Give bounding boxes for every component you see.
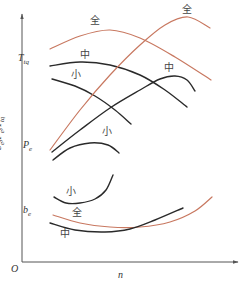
origin-label: O (11, 264, 18, 274)
load-label: 中 (164, 63, 174, 73)
curve-pe-全 (50, 17, 210, 150)
load-label: 中 (60, 229, 70, 239)
load-label: 小 (66, 187, 76, 197)
curve-group (50, 17, 212, 232)
load-label: 全 (90, 16, 100, 26)
load-label: 全 (72, 208, 82, 218)
curve-pe-小 (53, 143, 119, 160)
series-name-label: Pe (23, 140, 32, 153)
curve-pe-中 (52, 76, 195, 152)
load-label: 中 (80, 50, 90, 60)
y-axis-label: be,Pe,Ttq (0, 117, 6, 150)
load-label: 小 (102, 127, 112, 137)
engine-characteristic-chart (0, 0, 243, 287)
load-label: 全 (182, 5, 192, 15)
x-axis-label: n (118, 270, 123, 280)
load-label: 小 (71, 70, 81, 80)
series-name-label: Ttq (18, 53, 29, 66)
series-name-label: be (23, 205, 31, 218)
curve-be-小 (54, 175, 113, 204)
